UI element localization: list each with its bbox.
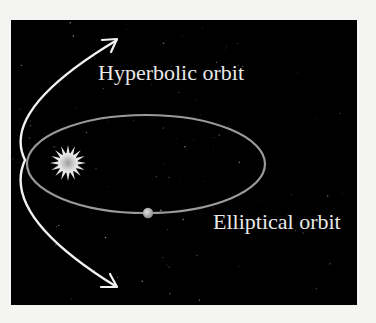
background-star xyxy=(12,158,13,159)
background-star xyxy=(54,146,56,148)
hyperbolic-orbit-label: Hyperbolic orbit xyxy=(98,60,244,85)
background-star xyxy=(341,193,342,194)
background-star xyxy=(30,120,31,121)
background-star xyxy=(142,281,143,282)
background-star xyxy=(225,50,226,51)
background-star xyxy=(107,186,108,187)
background-star xyxy=(184,146,185,147)
background-star xyxy=(316,118,317,119)
background-star xyxy=(76,107,77,108)
background-star xyxy=(169,293,170,294)
background-star xyxy=(164,164,165,165)
sun-icon xyxy=(50,145,86,181)
background-star xyxy=(117,277,118,278)
background-star xyxy=(103,88,104,89)
background-star xyxy=(341,166,342,167)
background-star xyxy=(329,263,330,264)
background-star xyxy=(316,288,317,289)
background-star xyxy=(287,137,288,138)
background-star xyxy=(214,137,215,138)
elliptical-orbit-label: Elliptical orbit xyxy=(213,209,341,234)
background-star xyxy=(21,65,22,66)
background-star xyxy=(200,114,201,115)
background-star xyxy=(167,229,168,230)
background-star xyxy=(69,22,70,23)
background-star xyxy=(258,201,259,202)
background-star xyxy=(228,126,229,127)
background-star xyxy=(17,91,18,92)
background-star xyxy=(55,244,57,246)
background-star xyxy=(70,32,71,33)
background-star xyxy=(238,266,239,267)
background-star xyxy=(19,108,20,109)
background-star xyxy=(219,134,220,135)
orbits-diagram: Hyperbolic orbit Elliptical orbit xyxy=(0,0,376,323)
background-star xyxy=(71,298,72,299)
background-star xyxy=(105,237,106,238)
background-star xyxy=(166,264,167,265)
background-star xyxy=(339,113,340,114)
background-star xyxy=(126,29,127,30)
background-star xyxy=(221,130,222,131)
background-star xyxy=(213,146,214,147)
background-star xyxy=(163,257,164,258)
background-star xyxy=(56,226,57,227)
background-star xyxy=(183,219,184,220)
background-star xyxy=(39,269,40,270)
planet xyxy=(143,208,153,218)
background-star xyxy=(163,127,164,128)
background-star xyxy=(81,170,82,171)
background-star xyxy=(291,194,292,195)
background-star xyxy=(160,210,162,212)
background-star xyxy=(226,46,227,47)
background-star xyxy=(176,138,177,139)
background-star xyxy=(193,140,194,141)
background-star xyxy=(73,35,75,37)
background-star xyxy=(202,28,203,29)
background-star xyxy=(34,121,35,122)
background-star xyxy=(199,300,200,301)
background-star xyxy=(30,125,31,126)
background-star xyxy=(182,36,183,37)
background-star xyxy=(107,121,108,122)
background-star xyxy=(327,195,328,196)
background-star xyxy=(168,177,170,179)
background-star xyxy=(296,72,297,73)
background-star xyxy=(156,176,157,177)
background-star xyxy=(283,60,284,61)
background-star xyxy=(203,181,204,182)
background-star xyxy=(59,84,60,85)
background-star xyxy=(178,92,179,93)
background-star xyxy=(163,42,165,44)
background-star xyxy=(239,161,241,163)
background-star xyxy=(133,120,134,121)
background-star xyxy=(196,255,197,256)
background-star xyxy=(318,181,319,182)
background-star xyxy=(29,137,30,138)
background-star xyxy=(58,225,59,226)
background-star xyxy=(168,267,169,268)
background-star xyxy=(95,168,96,169)
background-star xyxy=(104,291,105,292)
background-star xyxy=(180,179,181,180)
background-star xyxy=(196,100,197,101)
background-star xyxy=(75,206,76,207)
background-star xyxy=(237,43,238,44)
background-star xyxy=(86,132,87,133)
sun-core xyxy=(58,153,78,173)
